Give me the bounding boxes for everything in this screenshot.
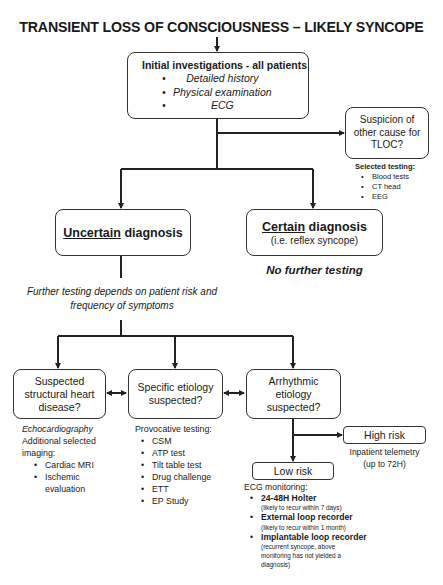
low-risk-box: Low risk xyxy=(252,462,334,480)
ecg-monitoring-list: 24-48H Holter (likely to recur within 7 … xyxy=(250,493,384,570)
ecg-monitoring: ECG monitoring: 24-48H Holter (likely to… xyxy=(244,482,384,569)
further-testing-line: frequency of symptoms xyxy=(0,299,244,313)
provocative-heading: Provocative testing: xyxy=(135,423,212,435)
monitoring-item: Implantable loop recorder (recurrent syn… xyxy=(250,532,384,570)
monitoring-item-detail: (likely to recur within 7 days) xyxy=(261,503,384,512)
certain-diagnosis-box: Certain diagnosis (i.e. reflex syncope) xyxy=(246,209,383,256)
structural-line: disease? xyxy=(38,401,80,414)
testing-item: Blood tests xyxy=(361,172,415,182)
monitoring-item-detail: (recurrent syncope, above monitoring has… xyxy=(261,542,366,569)
arrhythmic-line: Arrhythmic xyxy=(268,375,318,388)
certain-underlined: Certain xyxy=(262,220,305,234)
uncertain-underlined: Uncertain xyxy=(63,226,121,240)
structural-list: Cardiac MRI Ischemic evaluation xyxy=(34,459,104,495)
arrhythmic-etiology-box: Arrhythmic etiology suspected? xyxy=(246,369,341,419)
other-cause-line: Suspicion of xyxy=(360,114,414,127)
imaging-item: Cardiac MRI xyxy=(34,459,104,471)
other-cause-testing-heading: Selected testing: xyxy=(355,162,415,172)
certain-sub: (i.e. reflex syncope) xyxy=(271,235,358,246)
monitoring-item-name: 24-48H Holter xyxy=(261,493,384,504)
other-cause-line: other cause for xyxy=(354,127,421,140)
structural-heart-box: Suspected structural heart disease? xyxy=(13,369,106,419)
testing-item: CT head xyxy=(361,182,415,192)
monitoring-item-name: External loop recorder xyxy=(261,512,384,523)
high-risk-note-line: Inpatient telemetry xyxy=(333,446,436,458)
provocative-item: EP Study xyxy=(141,495,212,507)
initial-investigations-box: Initial investigations - all patients De… xyxy=(127,52,309,119)
imaging-item: Ischemic evaluation xyxy=(34,471,104,495)
specific-line: suspected? xyxy=(149,394,203,407)
provocative-item: Tilt table test xyxy=(141,459,212,471)
high-risk-label: High risk xyxy=(364,429,405,441)
other-cause-testing: Selected testing: Blood tests CT head EE… xyxy=(355,162,415,202)
arrhythmic-line: etiology xyxy=(275,388,311,401)
monitoring-item: External loop recorder (likely to recur … xyxy=(250,512,384,532)
no-further-testing: No further testing xyxy=(246,264,383,276)
high-risk-note: Inpatient telemetry (up to 72H) xyxy=(333,446,436,470)
initial-item: ECG xyxy=(162,99,272,113)
diagram-title: TRANSIENT LOSS OF CONSCIOUSNESS – LIKELY… xyxy=(0,19,443,35)
uncertain-rest: diagnosis xyxy=(121,226,183,240)
provocative-list: CSM ATP test Tilt table test Drug challe… xyxy=(141,435,212,507)
initial-item: Detailed history xyxy=(162,72,272,86)
low-risk-label: Low risk xyxy=(274,465,313,477)
additional-imaging-label: imaging: xyxy=(22,447,104,459)
further-testing-note: Further testing depends on patient risk … xyxy=(0,285,244,313)
other-cause-line: TLOC? xyxy=(371,139,403,152)
additional-imaging-label: Additional selected xyxy=(22,435,104,447)
initial-item: Physical examination xyxy=(162,86,272,100)
provocative-item: Drug challenge xyxy=(141,471,212,483)
other-cause-testing-list: Blood tests CT head EEG xyxy=(361,172,415,202)
structural-line: Suspected xyxy=(35,375,85,388)
certain-rest: diagnosis xyxy=(305,220,367,234)
uncertain-diagnosis-box: Uncertain diagnosis xyxy=(55,209,191,256)
high-risk-box: High risk xyxy=(343,426,426,444)
provocative-item: ETT xyxy=(141,483,212,495)
initial-heading: Initial investigations - all patients xyxy=(142,59,307,73)
specific-line: Specific etiology xyxy=(138,381,214,394)
testing-item: EEG xyxy=(361,192,415,202)
structural-testing: Echocardiography Additional selected ima… xyxy=(22,423,104,495)
monitoring-item: 24-48H Holter (likely to recur within 7 … xyxy=(250,493,384,513)
other-cause-box: Suspicion of other cause for TLOC? xyxy=(345,107,429,159)
high-risk-note-line: (up to 72H) xyxy=(333,458,436,470)
specific-etiology-box: Specific etiology suspected? xyxy=(128,369,223,419)
further-testing-line: Further testing depends on patient risk … xyxy=(0,285,244,299)
arrhythmic-line: suspected? xyxy=(267,401,321,414)
structural-line: structural heart xyxy=(24,388,94,401)
monitoring-item-detail: (likely to recur within 1 month) xyxy=(261,523,384,532)
echo-label: Echocardiography xyxy=(22,423,104,435)
provocative-item: CSM xyxy=(141,435,212,447)
monitoring-item-name: Implantable loop recorder xyxy=(261,532,384,543)
provocative-item: ATP test xyxy=(141,447,212,459)
provocative-testing: Provocative testing: CSM ATP test Tilt t… xyxy=(135,423,212,507)
ecg-monitoring-heading: ECG monitoring: xyxy=(244,482,384,493)
initial-list: Detailed history Physical examination EC… xyxy=(162,72,272,113)
